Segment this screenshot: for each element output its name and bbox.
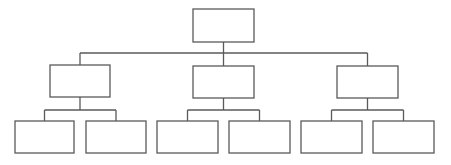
node-box <box>15 121 74 153</box>
node-box <box>373 121 434 153</box>
node-box <box>193 66 254 98</box>
node-box <box>50 65 110 97</box>
org-node-mid-center <box>193 66 254 98</box>
org-node-mid-left <box>50 65 110 97</box>
org-node-leaf-3 <box>157 121 218 153</box>
org-node-leaf-4 <box>229 121 290 153</box>
node-box <box>193 9 254 42</box>
node-box <box>301 121 362 153</box>
org-node-leaf-6 <box>373 121 434 153</box>
node-box <box>229 121 290 153</box>
node-box <box>86 121 146 153</box>
org-node-leaf-2 <box>86 121 146 153</box>
org-chart-canvas <box>0 0 451 165</box>
org-node-root <box>193 9 254 42</box>
org-node-mid-right <box>337 66 398 98</box>
node-box <box>157 121 218 153</box>
node-box <box>337 66 398 98</box>
org-node-leaf-5 <box>301 121 362 153</box>
org-chart-diagram <box>0 0 451 165</box>
org-node-leaf-1 <box>15 121 74 153</box>
